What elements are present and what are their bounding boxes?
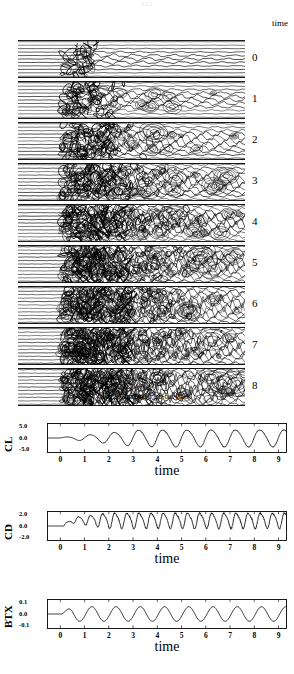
figure-iso-bar-lines: time 012345678 (0, 18, 294, 390)
panel-time-label: 5 (252, 256, 258, 268)
iso-bar-contour-plot (18, 327, 245, 365)
y-tick-label: 0.1 (19, 598, 27, 605)
contour-panel (18, 327, 245, 365)
y-tick-label: 2.0 (19, 510, 27, 517)
paper-page: 312 time 012345678 Fig.3 Computed iso-ba… (0, 0, 294, 674)
panel-time-label: 6 (252, 297, 258, 309)
panel-time-label: 3 (252, 174, 258, 186)
y-tick-label: -2.0 (19, 533, 29, 540)
data-curve (47, 607, 287, 622)
chart-cl: CL5.00.0-5.00123456789time (0, 421, 294, 481)
contour-panel (18, 245, 245, 283)
iso-bar-contour-plot (18, 40, 245, 78)
y-tick-label: 0.0 (19, 610, 27, 617)
y-axis-label: CD (2, 524, 14, 540)
iso-bar-contour-plot (18, 163, 245, 201)
data-curve (47, 430, 287, 447)
plot-frame (47, 511, 287, 545)
x-axis-label: time (47, 639, 287, 655)
chart-cd: CD2.00.0-2.00123456789time (0, 509, 294, 569)
y-tick-label: 0.0 (19, 434, 27, 441)
panel-time-label: 4 (252, 215, 258, 227)
y-axis-label: BTX (2, 605, 14, 628)
contour-panel (18, 163, 245, 201)
contour-panel (18, 122, 245, 160)
data-curve (47, 512, 287, 529)
iso-bar-contour-plot (18, 245, 245, 283)
contour-panel (18, 204, 245, 242)
y-tick-label: 0.0 (19, 522, 27, 529)
y-tick-label: 5.0 (19, 422, 27, 429)
iso-bar-contour-plot (18, 286, 245, 324)
plot-frame (47, 599, 287, 633)
iso-bar-contour-plot (18, 204, 245, 242)
panel-time-label: 0 (252, 51, 258, 63)
x-axis-label: time (47, 463, 287, 479)
panel-time-label: 7 (252, 338, 258, 350)
contour-panel (18, 40, 245, 78)
y-axis-label: CL (2, 437, 14, 452)
chart-btx: BTX0.10.0-0.10123456789time (0, 597, 294, 657)
iso-bar-contour-plot (18, 81, 245, 119)
plot-frame (47, 423, 287, 457)
contour-panel (18, 286, 245, 324)
figure-caption: Fig.3 Computed iso-bar lines. (0, 392, 294, 401)
panel-time-label: 8 (252, 379, 258, 391)
figure-caption-text: Computed iso-bar lines. (120, 392, 192, 401)
x-axis-label: time (47, 551, 287, 567)
panel-time-label: 2 (252, 133, 258, 145)
figure-caption-label: Fig.3 (102, 392, 118, 401)
time-axis-header: time (272, 18, 288, 28)
panel-time-label: 1 (252, 92, 258, 104)
iso-bar-contour-plot (18, 122, 245, 160)
page-number: 312 (0, 1, 294, 7)
y-tick-label: -0.1 (19, 621, 29, 628)
y-tick-label: -5.0 (19, 445, 29, 452)
contour-panel (18, 81, 245, 119)
